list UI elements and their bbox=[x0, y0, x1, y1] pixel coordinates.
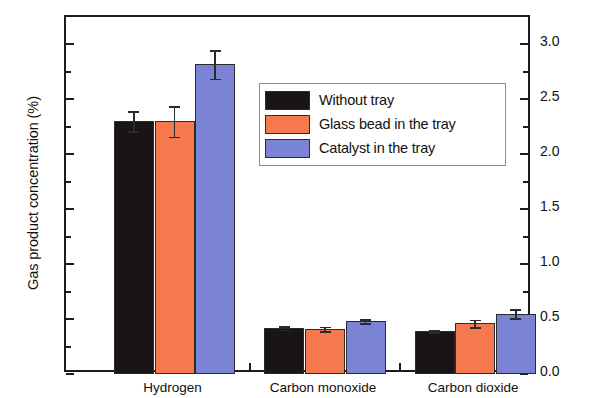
bar bbox=[455, 323, 495, 374]
x-axis-category-label: Hydrogen bbox=[143, 380, 202, 395]
error-bar-cap-bottom bbox=[210, 79, 221, 81]
plot-area bbox=[64, 15, 530, 372]
y-tick-minor-right bbox=[523, 236, 528, 238]
y-tick-minor-right bbox=[523, 291, 528, 293]
bar bbox=[346, 321, 386, 374]
y-tick-minor-left bbox=[66, 291, 71, 293]
plot-inner bbox=[66, 17, 528, 370]
bar bbox=[305, 329, 345, 374]
error-bar-cap-top bbox=[510, 309, 521, 311]
legend-item: Glass bead in the tray bbox=[265, 112, 499, 136]
y-tick-label-right: 2.5 bbox=[540, 88, 559, 104]
y-tick-label-right: 0.0 bbox=[540, 363, 559, 379]
error-bar-cap-bottom bbox=[128, 131, 139, 133]
error-bar-line bbox=[133, 111, 135, 131]
legend-swatch-glass-bead bbox=[265, 115, 310, 134]
y-tick-minor-right bbox=[523, 71, 528, 73]
y-tick-label-right: 1.5 bbox=[540, 198, 559, 214]
y-tick-minor-left bbox=[66, 181, 71, 183]
error-bar-cap-top bbox=[279, 326, 290, 328]
legend-item: Without tray bbox=[265, 88, 499, 112]
error-bar-cap-bottom bbox=[169, 137, 180, 139]
y-tick-major-right bbox=[520, 153, 528, 155]
bar bbox=[415, 331, 455, 374]
y-tick-major-left bbox=[66, 208, 74, 210]
legend-label: Catalyst in the tray bbox=[319, 140, 435, 156]
y-tick-major-right bbox=[520, 263, 528, 265]
error-bar-cap-bottom bbox=[429, 332, 440, 334]
x-axis-category-label: Carbon monoxide bbox=[270, 380, 377, 395]
y-tick-major-right bbox=[520, 98, 528, 100]
y-tick-major-left bbox=[66, 373, 74, 375]
y-tick-minor-right bbox=[523, 126, 528, 128]
bar bbox=[496, 314, 536, 374]
y-tick-major-left bbox=[66, 318, 74, 320]
bar bbox=[114, 121, 154, 374]
error-bar-cap-top bbox=[360, 319, 371, 321]
error-bar-line bbox=[174, 106, 176, 137]
bar bbox=[155, 121, 195, 374]
y-tick-label-right: 1.0 bbox=[540, 253, 559, 269]
error-bar-cap-top bbox=[128, 111, 139, 113]
y-tick-minor-left bbox=[66, 346, 71, 348]
error-bar-cap-bottom bbox=[279, 330, 290, 332]
x-tick bbox=[399, 363, 401, 370]
chart-legend: Without tray Glass bead in the tray Cata… bbox=[259, 83, 506, 166]
y-tick-major-right bbox=[520, 208, 528, 210]
y-tick-minor-left bbox=[66, 126, 71, 128]
y-tick-label-right: 3.0 bbox=[540, 33, 559, 49]
y-tick-minor-right bbox=[523, 181, 528, 183]
y-tick-label-right: 2.0 bbox=[540, 143, 559, 159]
error-bar-cap-top bbox=[429, 330, 440, 332]
error-bar-cap-bottom bbox=[320, 331, 331, 333]
y-tick-major-left bbox=[66, 98, 74, 100]
error-bar-cap-bottom bbox=[360, 323, 371, 325]
error-bar-cap-top bbox=[470, 320, 481, 322]
error-bar-line bbox=[214, 50, 216, 79]
y-tick-major-right bbox=[520, 43, 528, 45]
y-tick-major-left bbox=[66, 263, 74, 265]
bar bbox=[195, 64, 235, 374]
error-bar-cap-bottom bbox=[470, 327, 481, 329]
legend-label: Without tray bbox=[319, 92, 394, 108]
y-axis-title: Gas product concentration (%) bbox=[25, 28, 41, 358]
x-axis-category-label: Carbon dioxide bbox=[428, 380, 519, 395]
y-tick-major-left bbox=[66, 43, 74, 45]
error-bar-cap-top bbox=[320, 327, 331, 329]
y-tick-minor-left bbox=[66, 71, 71, 73]
y-tick-label-right: 0.5 bbox=[540, 308, 559, 324]
error-bar-cap-bottom bbox=[510, 318, 521, 320]
legend-swatch-catalyst bbox=[265, 139, 310, 158]
y-tick-minor-left bbox=[66, 236, 71, 238]
y-tick-major-left bbox=[66, 153, 74, 155]
x-tick bbox=[249, 363, 251, 370]
error-bar-cap-top bbox=[210, 50, 221, 52]
legend-swatch-without-tray bbox=[265, 91, 310, 110]
legend-label: Glass bead in the tray bbox=[319, 116, 456, 132]
bar bbox=[264, 328, 304, 374]
error-bar-cap-top bbox=[169, 106, 180, 108]
legend-item: Catalyst in the tray bbox=[265, 136, 499, 160]
bar-chart-figure: Gas product concentration (%) Without tr… bbox=[0, 0, 592, 398]
